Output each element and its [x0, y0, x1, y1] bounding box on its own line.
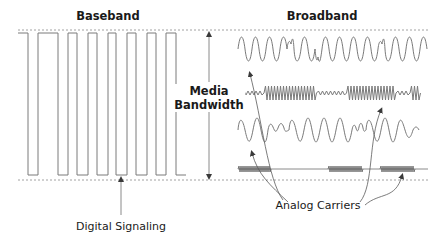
- media-bandwidth-label: Media Bandwidth: [172, 84, 245, 112]
- broadband-carrier-2: [238, 86, 421, 100]
- media-bandwidth-line1: Media: [174, 84, 243, 98]
- analog-carriers-label: Analog Carriers: [276, 199, 361, 212]
- broadband-title: Broadband: [287, 9, 358, 23]
- broadband-carrier-3: [238, 118, 419, 142]
- baseband-title: Baseband: [76, 9, 140, 23]
- analog-carrier-arrow-2: [252, 153, 288, 202]
- baseband-square-wave: [18, 33, 186, 175]
- analog-carrier-arrow-3: [360, 110, 381, 202]
- broadband-carrier-1: [238, 37, 427, 61]
- digital-signaling-label: Digital Signaling: [76, 220, 166, 233]
- diagram-canvas: [0, 0, 441, 244]
- media-bandwidth-line2: Bandwidth: [174, 98, 243, 112]
